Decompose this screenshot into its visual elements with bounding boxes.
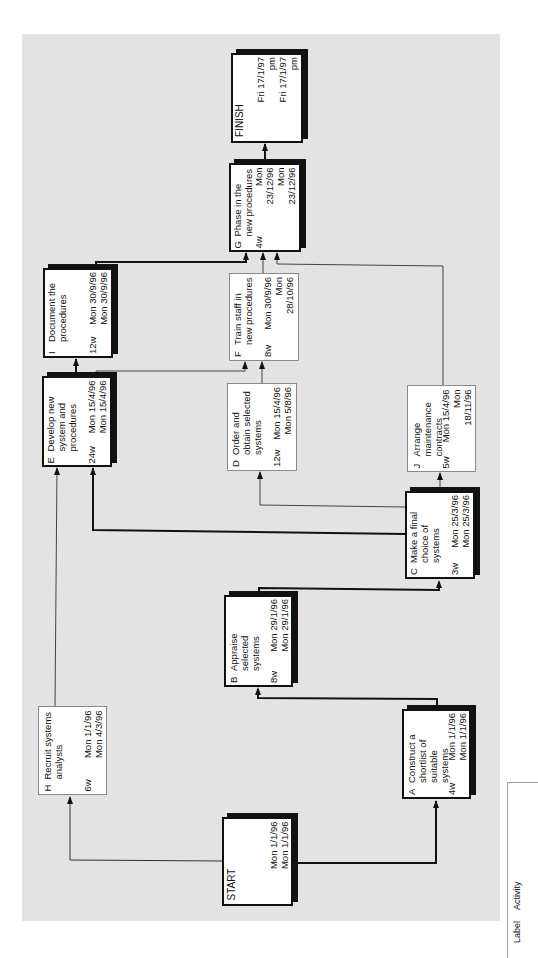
activity-desc: Make a final choice of systems — [408, 495, 441, 563]
activity-duration: 8w — [262, 331, 295, 357]
earliest-date: Mon 29/1/96 — [267, 599, 278, 657]
legend-activity-header: Activity — [512, 881, 522, 910]
earliest-date: Mon 1/1/96 — [267, 821, 278, 876]
latest-date: Mon 25/3/96 — [460, 495, 471, 549]
latest-date: Mon 4/3/96 — [92, 710, 103, 765]
activity-desc: Appraise selected systems — [227, 599, 260, 671]
earliest-date: Mon 30/9/96 — [87, 272, 98, 328]
activity-label: H — [41, 779, 63, 791]
activity-duration: 4w — [253, 222, 297, 248]
activity-duration: 12w — [87, 328, 109, 354]
node-activity-b: BAppraise selected systems 8w Mon 29/1/9… — [224, 595, 293, 687]
activity-label: D — [230, 455, 263, 467]
node-activity-i: IDocument the procedures 12w Mon 30/9/96… — [43, 268, 113, 358]
activity-duration: 4w — [445, 769, 467, 795]
earliest-date: Fri 17/1/97 pm — [255, 57, 277, 113]
link-c-e — [93, 468, 405, 534]
link-b-c — [259, 582, 439, 595]
node-activity-a: AConstruct a shortlist of suitable syste… — [402, 709, 471, 799]
latest-date: Mon 15/4/96 — [97, 380, 108, 437]
earliest-date: Mon 1/1/96 — [445, 713, 456, 769]
latest-date: Mon 28/10/96 — [273, 277, 295, 331]
activity-label: G — [232, 236, 254, 248]
earliest-date: Mon 23/12/96 — [253, 167, 275, 222]
activity-label: I — [46, 342, 68, 354]
node-title: FINISH — [234, 57, 245, 139]
latest-date: Mon 1/1/96 — [278, 821, 289, 876]
activity-label: A — [405, 783, 449, 795]
activity-label: E — [45, 451, 78, 463]
activity-label: B — [227, 671, 260, 683]
link-start-h — [70, 797, 222, 861]
link-start-a — [295, 801, 436, 863]
latest-date: Mon 1/1/96 — [456, 713, 467, 769]
node-activity-d: DOrder and obtain selected systems 12w M… — [227, 383, 297, 471]
activity-desc: Order and obtain selected systems — [230, 387, 263, 455]
latest-date: Mon 5/8/96 — [282, 387, 293, 441]
node-activity-h: HRecruit systems analysts 6w Mon 1/1/96M… — [38, 706, 107, 795]
latest-date: Mon 18/11/96 — [450, 389, 472, 442]
activity-duration: 12w — [271, 441, 293, 467]
earliest-date: Mon 25/3/96 — [449, 495, 460, 549]
activity-label: F — [232, 345, 254, 357]
earliest-date: Mon 15/4/96 — [271, 387, 282, 441]
earliest-date: Mon 15/4/96 — [86, 380, 97, 437]
node-activity-c: CMake a final choice of systems 3w Mon 2… — [405, 491, 475, 579]
node-start: START Mon 1/1/96Mon 1/1/96 — [222, 817, 293, 906]
link-i-g — [96, 253, 246, 268]
activity-desc: Recruit systems analysts — [41, 710, 63, 779]
earliest-date: Mon 1/1/96 — [81, 710, 92, 765]
latest-date: Mon 30/9/96 — [98, 272, 109, 328]
latest-date: Mon 23/12/96 — [275, 167, 297, 222]
node-title: START — [225, 821, 236, 902]
activity-duration: 8w — [267, 657, 289, 683]
legend-label-header: Label — [512, 921, 522, 943]
activity-desc: Construct a shortlist of suitable system… — [405, 713, 449, 783]
node-activity-f: FTrain staff in new procedures 8w Mon 30… — [229, 273, 299, 361]
activity-desc: Arrange maintenance contracts — [410, 389, 443, 456]
link-e-f — [96, 362, 245, 376]
link-j-g — [277, 253, 443, 385]
activity-label: J — [410, 456, 443, 468]
latest-date: Fri 17/1/97 pm — [277, 57, 299, 113]
latest-date: Mon 29/1/96 — [278, 599, 289, 657]
activity-duration: 5w — [439, 442, 472, 468]
activity-duration: 3w — [449, 549, 471, 575]
activity-desc: Document the procedures — [46, 272, 68, 342]
node-finish: FINISH Fri 17/1/97 pmFri 17/1/97 pm — [231, 53, 303, 143]
earliest-date: Mon 30/9/96 — [262, 277, 273, 331]
activity-label: C — [408, 563, 441, 575]
activity-desc: Train staff in new procedures — [232, 277, 254, 345]
activity-duration: 24w — [86, 437, 108, 463]
link-c-d — [260, 472, 405, 507]
node-activity-e: EDevelop new system and procedures 24w M… — [42, 376, 112, 467]
legend-key: Label Activity — [507, 782, 538, 958]
activity-duration: 6w — [81, 765, 103, 791]
link-a-b — [258, 689, 437, 709]
node-activity-j: JArrange maintenance contracts 5w Mon 15… — [407, 385, 476, 472]
node-activity-g: GPhase in the new procedures 4w Mon 23/1… — [229, 163, 301, 252]
activity-desc: Phase in the new procedures — [232, 167, 254, 236]
activity-desc: Develop new system and procedures — [45, 380, 78, 451]
link-h-e — [55, 468, 57, 706]
earliest-date: Mon 15/4/96 — [439, 389, 450, 442]
